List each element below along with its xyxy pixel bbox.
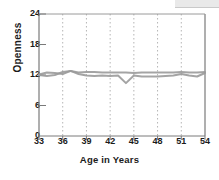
chart-figure: Openness Age in Years 06121824 333639424… [0,0,219,180]
tick-marks [39,14,205,140]
plot-area [0,0,219,180]
data-lines [39,71,205,83]
